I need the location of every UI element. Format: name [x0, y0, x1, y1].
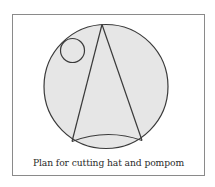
pompom-circle — [61, 39, 85, 63]
figure-caption: Plan for cutting hat and pompom — [12, 157, 205, 168]
